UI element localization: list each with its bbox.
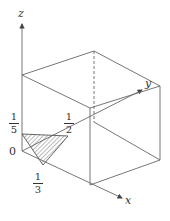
y-axis-label: y (145, 78, 151, 89)
diagram-canvas: z x y 0 1 5 1 2 1 3 (0, 0, 170, 221)
cube-bottom-front-edge (90, 160, 160, 185)
cube-bottom-right-edge (94, 122, 160, 160)
z-den: 5 (11, 124, 17, 135)
origin-label: 0 (9, 146, 16, 157)
y-intercept-fraction: 1 2 (64, 112, 74, 135)
cube-axes-drawing (0, 0, 170, 221)
x-axis-label: x (125, 195, 131, 206)
x-intercept-fraction: 1 3 (33, 172, 43, 195)
z-num: 1 (11, 111, 17, 122)
x-den: 3 (35, 184, 41, 195)
cube-top-face (22, 51, 160, 108)
y-den: 2 (66, 124, 72, 135)
y-num: 1 (66, 111, 72, 122)
z-intercept-fraction: 1 5 (9, 112, 19, 135)
x-num: 1 (35, 171, 41, 182)
shaded-triangle (22, 134, 68, 165)
z-axis-label: z (18, 8, 24, 19)
